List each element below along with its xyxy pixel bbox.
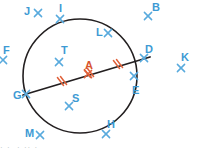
diagram-canvas: JIBLFTDKAGESMH · · · ·· · — [0, 0, 199, 151]
point-marker-T[interactable] — [55, 58, 62, 65]
footer-text: · · · ·· · — [0, 144, 199, 151]
circle-shape — [23, 19, 137, 133]
circle-outline — [23, 19, 137, 133]
point-marker-B[interactable] — [144, 12, 151, 19]
point-marker-H[interactable] — [102, 130, 109, 137]
point-marker-I[interactable] — [56, 15, 63, 22]
point-marker-M[interactable] — [36, 131, 43, 138]
point-marker-K[interactable] — [177, 64, 184, 71]
circle-geometry-svg — [0, 0, 199, 151]
point-marker-F[interactable] — [0, 56, 7, 63]
point-marker-J[interactable] — [34, 9, 41, 16]
clipped-footer-text: · · · ·· · — [0, 144, 199, 151]
point-marker-L[interactable] — [104, 29, 111, 36]
point-marker-S[interactable] — [65, 102, 72, 109]
